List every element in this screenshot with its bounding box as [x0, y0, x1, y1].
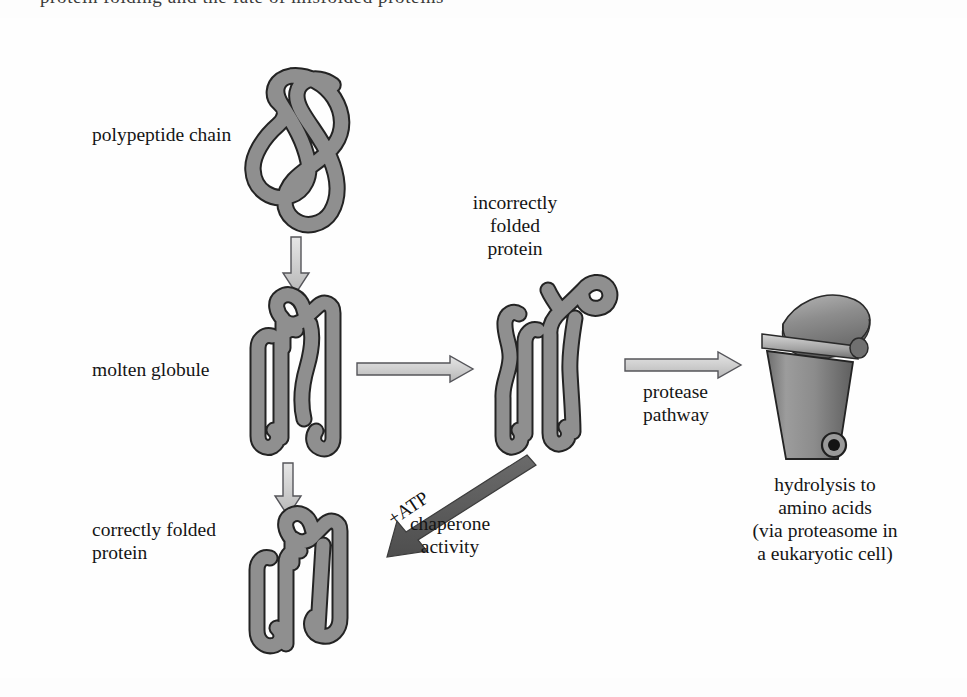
- label-polypeptide-chain: polypeptide chain: [92, 123, 231, 146]
- label-protease-pathway: protease pathway: [643, 380, 709, 426]
- label-molten-globule: molten globule: [92, 358, 210, 381]
- diagram-artwork: [0, 18, 967, 678]
- arrow-globule-to-misfolded: [357, 356, 473, 382]
- incorrectly-folded-protein-shape: [503, 282, 610, 447]
- label-incorrectly-folded-protein: incorrectly folded protein: [452, 191, 578, 260]
- label-hydrolysis-to-amino-acids: hydrolysis to amino acids (via proteasom…: [700, 473, 950, 565]
- diagram-canvas: polypeptide chain molten globule correct…: [0, 18, 967, 678]
- cropped-caption-line: protein folding and the fate of misfolde…: [0, 0, 967, 14]
- polypeptide-chain-outline: [253, 76, 342, 225]
- waste-bin-shape: [762, 295, 870, 459]
- cropped-caption-text: protein folding and the fate of misfolde…: [40, 0, 444, 8]
- figure-page: protein folding and the fate of misfolde…: [0, 0, 967, 697]
- arrow-misfolded-to-bin: [625, 352, 741, 378]
- molten-globule-shape: [258, 295, 333, 449]
- label-chaperone-activity: chaperone activity: [375, 512, 525, 558]
- arrow-chain-to-globule: [283, 237, 309, 293]
- correctly-folded-protein-shape: [257, 514, 340, 646]
- label-correctly-folded-protein: correctly folded protein: [92, 518, 216, 564]
